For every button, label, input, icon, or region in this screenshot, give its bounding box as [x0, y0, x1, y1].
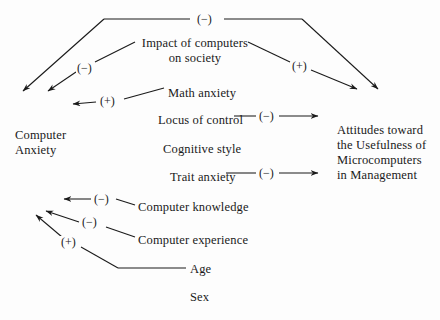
edge-label-age-to-anxiety-sign: (+) [60, 236, 77, 248]
node-attitudes-toward-usefulness: Attitudes toward the Usefulness of Micro… [337, 123, 426, 183]
node-sex: Sex [190, 290, 209, 305]
edge-age-seg2 [81, 247, 118, 268]
diagram-canvas: Impact of computers on society Math anxi… [0, 0, 440, 320]
edge-math-to-anxiety [73, 102, 96, 104]
edge-impact-to-anxiety [48, 72, 76, 91]
node-computer-anxiety: Computer Anxiety [15, 128, 66, 158]
edge-label-knowledge-to-anxiety-sign: (−) [93, 193, 110, 205]
node-math-anxiety: Math anxiety [168, 86, 236, 101]
edge-label-impact-to-attitudes-sign: (+) [291, 60, 308, 72]
node-computer-knowledge: Computer knowledge [138, 200, 249, 215]
edge-label-math-to-anxiety-sign: (+) [99, 95, 116, 107]
node-age: Age [190, 262, 211, 277]
edge-experience-to-anxiety [46, 211, 79, 222]
edge-label-experience-to-anxiety-sign: (−) [81, 216, 98, 228]
edge-impact-anxiety-seg1 [95, 42, 135, 62]
edge-label-impact-to-anxiety-sign: (−) [76, 62, 93, 74]
edge-impact-attitudes-seg1 [248, 42, 290, 62]
edge-impact-to-attitudes [311, 70, 357, 89]
node-trait-anxiety: Trait anxiety [170, 170, 236, 185]
edge-label-impact-top-sign: (−) [196, 13, 213, 25]
node-cognitive-style: Cognitive style [163, 142, 241, 157]
edge-knowledge-seg1 [116, 199, 135, 205]
edge-age-to-anxiety [36, 215, 62, 237]
node-computer-experience: Computer experience [138, 233, 248, 248]
edge-label-trait-to-attitudes-sign: (−) [258, 167, 275, 179]
edge-experience-seg1 [106, 227, 135, 237]
edge-top-right-branch [302, 19, 378, 89]
edge-math-anxiety-seg1 [124, 88, 164, 99]
node-impact-of-computers: Impact of computers on society [140, 36, 250, 66]
edge-label-locus-to-attitudes-sign: (−) [258, 110, 275, 122]
node-locus-of-control: Locus of control [158, 113, 243, 128]
